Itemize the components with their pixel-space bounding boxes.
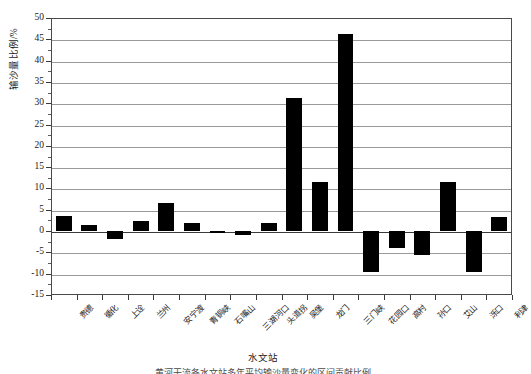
x-axis-title: 水文站 bbox=[0, 350, 525, 364]
figure-caption: 黄河干流各水文站多年平均输沙量变化的区间贡献比例 bbox=[0, 366, 525, 374]
y-axis-minor-tick bbox=[48, 71, 51, 72]
x-axis-tick bbox=[230, 295, 231, 300]
y-axis-tick-label: 40 bbox=[4, 56, 44, 66]
y-axis-tick bbox=[46, 103, 51, 104]
bar bbox=[81, 225, 97, 231]
bar bbox=[312, 182, 328, 231]
x-axis-category-label: 泺口 bbox=[487, 303, 505, 321]
bar bbox=[210, 231, 226, 233]
y-axis-tick-label: 15 bbox=[4, 162, 44, 172]
x-axis-tick bbox=[435, 295, 436, 300]
gridline bbox=[52, 104, 511, 105]
y-axis-minor-tick bbox=[48, 114, 51, 115]
x-axis-tick bbox=[128, 295, 129, 300]
gridline bbox=[52, 253, 511, 254]
x-axis-tick bbox=[512, 295, 513, 300]
x-axis-tick bbox=[77, 295, 78, 300]
y-axis-tick-label: -5 bbox=[4, 247, 44, 257]
y-axis-minor-tick bbox=[48, 29, 51, 30]
y-axis-tick bbox=[46, 82, 51, 83]
x-axis-category-label: 上诠 bbox=[129, 303, 147, 321]
y-axis-minor-tick bbox=[48, 284, 51, 285]
y-axis-tick bbox=[46, 188, 51, 189]
y-axis-tick-label: 50 bbox=[4, 13, 44, 23]
x-axis-tick bbox=[153, 295, 154, 300]
y-axis-tick bbox=[46, 125, 51, 126]
x-axis-tick bbox=[461, 295, 462, 300]
bar bbox=[414, 231, 430, 254]
x-axis-tick bbox=[205, 295, 206, 300]
y-axis-minor-tick bbox=[48, 157, 51, 158]
bar bbox=[56, 216, 72, 231]
bar bbox=[261, 223, 277, 232]
bar bbox=[286, 98, 302, 231]
x-axis-category-label: 花园口 bbox=[387, 303, 411, 327]
x-axis-category-label: 高村 bbox=[410, 303, 428, 321]
y-axis-tick bbox=[46, 167, 51, 168]
x-axis-category-label: 吴堡 bbox=[308, 303, 326, 321]
y-axis-minor-tick bbox=[48, 199, 51, 200]
x-axis-category-label: 龙门 bbox=[334, 303, 352, 321]
x-axis-category-label: 贵德 bbox=[78, 303, 96, 321]
y-axis-minor-tick bbox=[48, 220, 51, 221]
gridline bbox=[52, 40, 511, 41]
bar bbox=[440, 182, 456, 231]
y-axis-tick bbox=[46, 252, 51, 253]
x-axis-category-label: 石嘴山 bbox=[234, 303, 258, 327]
x-axis-tick bbox=[282, 295, 283, 300]
gridline bbox=[52, 126, 511, 127]
y-axis-minor-tick bbox=[48, 93, 51, 94]
x-axis-tick bbox=[486, 295, 487, 300]
x-axis-tick bbox=[179, 295, 180, 300]
y-axis-tick-label: 20 bbox=[4, 141, 44, 151]
y-axis-tick-label: -10 bbox=[4, 269, 44, 279]
y-axis-tick-label: 0 bbox=[4, 226, 44, 236]
y-axis-minor-tick bbox=[48, 135, 51, 136]
y-axis-tick bbox=[46, 274, 51, 275]
y-axis-tick-label: 5 bbox=[4, 205, 44, 215]
bar bbox=[491, 217, 507, 231]
y-axis-tick-label: -15 bbox=[4, 290, 44, 300]
y-axis-tick bbox=[46, 210, 51, 211]
x-axis-category-label: 三门峡 bbox=[362, 303, 386, 327]
y-axis-tick bbox=[46, 61, 51, 62]
gridline bbox=[52, 168, 511, 169]
x-axis-category-label: 艾山 bbox=[462, 303, 480, 321]
gridline bbox=[52, 62, 511, 63]
x-axis-tick bbox=[384, 295, 385, 300]
x-axis-tick bbox=[333, 295, 334, 300]
x-axis-tick bbox=[358, 295, 359, 300]
y-axis-tick bbox=[46, 18, 51, 19]
bar bbox=[235, 231, 251, 235]
y-axis-tick bbox=[46, 146, 51, 147]
y-axis-minor-tick bbox=[48, 263, 51, 264]
y-axis-tick-label: 35 bbox=[4, 77, 44, 87]
y-axis-tick-label: 25 bbox=[4, 120, 44, 130]
x-axis-tick bbox=[256, 295, 257, 300]
y-axis-tick bbox=[46, 231, 51, 232]
plot-area bbox=[51, 18, 512, 295]
y-axis-minor-tick bbox=[48, 50, 51, 51]
y-axis-tick-label: 30 bbox=[4, 98, 44, 108]
y-axis-tick-label: 10 bbox=[4, 183, 44, 193]
y-axis-tick-label: 45 bbox=[4, 34, 44, 44]
gridline bbox=[52, 147, 511, 148]
x-axis-category-label: 青铜峡 bbox=[208, 303, 232, 327]
bar bbox=[133, 221, 149, 231]
y-axis-minor-tick bbox=[48, 178, 51, 179]
x-axis-category-label: 安宁渡 bbox=[182, 303, 206, 327]
x-axis-category-label: 循化 bbox=[103, 303, 121, 321]
x-axis-tick bbox=[410, 295, 411, 300]
y-axis-minor-tick bbox=[48, 242, 51, 243]
figure-caption-text: 黄河干流各水文站多年平均输沙量变化的区间贡献比例 bbox=[0, 366, 525, 374]
x-axis-category-label: 利津 bbox=[513, 303, 531, 321]
x-axis-tick bbox=[307, 295, 308, 300]
x-axis-category-label: 孙口 bbox=[436, 303, 454, 321]
x-axis-category-label: 兰州 bbox=[154, 303, 172, 321]
gridline bbox=[52, 83, 511, 84]
x-axis-tick bbox=[51, 295, 52, 300]
bar bbox=[338, 34, 354, 231]
bar bbox=[363, 231, 379, 272]
gridline bbox=[52, 275, 511, 276]
